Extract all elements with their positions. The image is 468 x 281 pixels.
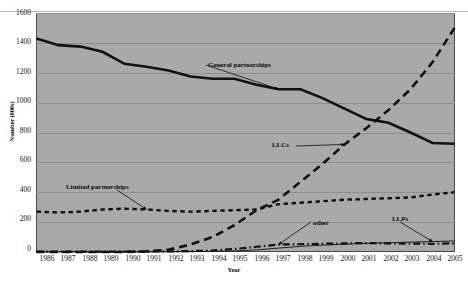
annotation-llps: LLPs (392, 215, 408, 223)
series-line-limited-partnerships (37, 192, 455, 212)
annotation-other: other (313, 219, 329, 227)
leader-line-llps (400, 222, 433, 242)
series-line-llps (37, 241, 455, 252)
series-line-general-partnerships (37, 38, 455, 143)
plot-canvas (0, 0, 468, 281)
annotation-llcs: LLCs (272, 141, 289, 149)
gridlines (36, 14, 455, 223)
annotation-limited-partnerships: Limited partnerships (66, 183, 129, 191)
leader-line-llcs (296, 144, 345, 146)
chart-root: 1600 1400 1200 1000 800 600 400 200 0 19… (0, 0, 468, 281)
annotation-general-partnerships: General partnerships (208, 61, 271, 69)
annotation-leader-lines (117, 65, 433, 245)
leader-line-other (279, 222, 312, 245)
